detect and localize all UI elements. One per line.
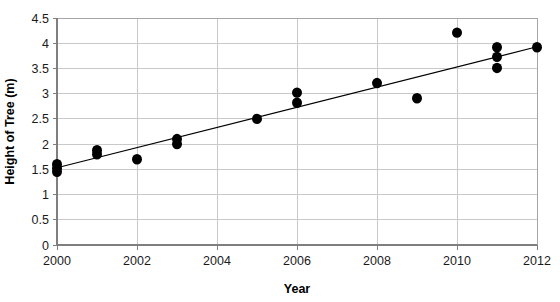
x-tick-label-2008: 2008 (363, 254, 391, 268)
data-point (492, 52, 502, 62)
chart-canvas: 00.511.522.533.544.5 2000200220042006200… (0, 0, 560, 302)
y-tick-label-1: 1 (42, 188, 49, 202)
y-axis-title: Height of Tree (m) (3, 78, 17, 184)
data-point (452, 27, 462, 37)
x-tick-label-2006: 2006 (283, 254, 311, 268)
y-tick-label-4: 4 (42, 37, 49, 51)
y-tick-label-2_5: 2.5 (32, 112, 49, 126)
x-tick-label-2000: 2000 (43, 254, 71, 268)
data-point (52, 159, 62, 169)
x-tick-label-2012: 2012 (523, 254, 551, 268)
y-tick-label-0: 0 (42, 239, 49, 253)
y-tick-label-0_5: 0.5 (32, 213, 49, 227)
data-point (92, 145, 102, 155)
y-tick-label-3: 3 (42, 87, 49, 101)
data-point (292, 87, 302, 97)
chart-background (0, 0, 560, 302)
data-point (492, 42, 502, 52)
y-tick-label-2: 2 (42, 138, 49, 152)
data-point (292, 98, 302, 108)
data-point (172, 134, 182, 144)
data-point (372, 78, 382, 88)
y-tick-label-4_5: 4.5 (32, 12, 49, 26)
scatter-chart: 00.511.522.533.544.5 2000200220042006200… (0, 0, 560, 302)
y-tick-label-1_5: 1.5 (32, 163, 49, 177)
data-point (252, 114, 262, 124)
x-tick-label-2002: 2002 (123, 254, 151, 268)
data-point (412, 93, 422, 103)
y-tick-label-3_5: 3.5 (32, 62, 49, 76)
data-point (532, 42, 542, 52)
x-tick-label-2004: 2004 (203, 254, 231, 268)
data-point (132, 154, 142, 164)
x-tick-label-2010: 2010 (443, 254, 471, 268)
x-axis-title: Year (284, 282, 311, 296)
data-point (492, 63, 502, 73)
